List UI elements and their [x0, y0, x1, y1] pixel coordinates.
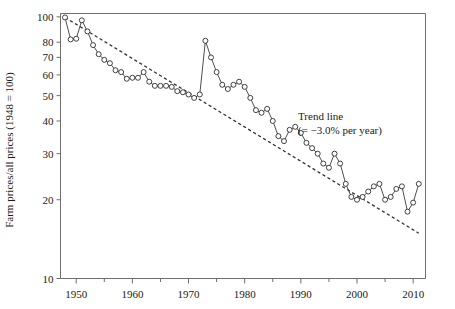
data-point [130, 75, 135, 80]
data-point [270, 118, 275, 123]
data-point [338, 161, 343, 166]
data-point [147, 79, 152, 84]
data-point [354, 197, 359, 202]
data-point [377, 181, 382, 186]
data-point [152, 83, 157, 88]
data-point [180, 90, 185, 95]
data-point [321, 161, 326, 166]
y-tick-label: 40 [43, 115, 55, 127]
chart-figure: 1020304050607080100 19501960197019801990… [0, 0, 455, 309]
data-point [332, 151, 337, 156]
data-point [287, 127, 292, 132]
data-point [91, 43, 96, 48]
x-tick-label: 1950 [65, 288, 88, 300]
data-point [119, 70, 124, 75]
data-point [79, 18, 84, 23]
x-tick-label: 2000 [346, 288, 369, 300]
data-point [399, 184, 404, 189]
data-point [186, 92, 191, 97]
y-tick-label: 70 [43, 51, 55, 63]
data-point [208, 55, 213, 60]
data-point [343, 181, 348, 186]
y-tick-label: 50 [43, 90, 55, 102]
data-point [394, 186, 399, 191]
data-point [383, 197, 388, 202]
data-point [68, 37, 73, 42]
data-point [265, 106, 270, 111]
data-point [220, 82, 225, 87]
data-point [214, 70, 219, 75]
data-point [276, 134, 281, 139]
chart-background [0, 0, 455, 309]
data-point [197, 92, 202, 97]
data-point [203, 38, 208, 43]
x-tick-label: 1970 [178, 288, 201, 300]
data-point [242, 84, 247, 89]
data-point [107, 61, 112, 66]
data-point [141, 70, 146, 75]
y-axis-label: Farm prices/all prices (1948 = 100) [3, 72, 16, 228]
y-tick-label: 100 [37, 11, 54, 23]
data-point [192, 95, 197, 100]
data-point [135, 75, 140, 80]
data-point [304, 140, 309, 145]
data-point [416, 181, 421, 186]
data-point [259, 110, 264, 115]
data-point [405, 209, 410, 214]
data-point [102, 57, 107, 62]
data-point [74, 36, 79, 41]
data-point [237, 79, 242, 84]
data-point [310, 146, 315, 151]
x-tick-label: 2010 [402, 288, 425, 300]
data-point [96, 52, 101, 57]
data-point [85, 29, 90, 34]
data-point [175, 89, 180, 94]
data-point [231, 82, 236, 87]
data-point [388, 194, 393, 199]
data-point [411, 200, 416, 205]
data-point [164, 83, 169, 88]
y-tick-label: 10 [43, 273, 55, 285]
data-point [326, 165, 331, 170]
trend-line-annotation-rate: (= −3.0% per year) [298, 124, 382, 137]
x-tick-label: 1960 [121, 288, 144, 300]
trend-line-annotation-title: Trend line [298, 110, 343, 122]
data-point [253, 108, 258, 113]
farm-prices-line-chart: 1020304050607080100 19501960197019801990… [0, 0, 455, 309]
y-tick-label: 80 [43, 36, 55, 48]
data-point [349, 194, 354, 199]
data-point [371, 184, 376, 189]
data-point [248, 95, 253, 100]
y-tick-label: 60 [43, 69, 55, 81]
y-tick-label: 20 [43, 194, 55, 206]
data-point [360, 194, 365, 199]
data-point [315, 151, 320, 156]
data-point [366, 189, 371, 194]
y-tick-label: 30 [43, 148, 55, 160]
x-tick-label: 1990 [290, 288, 313, 300]
x-tick-label: 1980 [234, 288, 257, 300]
data-point [169, 84, 174, 89]
data-point [124, 76, 129, 81]
data-point [158, 83, 163, 88]
data-point [113, 68, 118, 73]
data-point [62, 15, 67, 20]
data-point [225, 87, 230, 92]
data-point [281, 139, 286, 144]
data-point [293, 124, 298, 129]
